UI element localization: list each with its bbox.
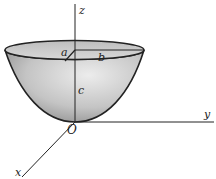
z-axis-label: z xyxy=(78,4,85,17)
semi-axis-a-label: a xyxy=(61,46,68,59)
x-axis-label: x xyxy=(15,166,22,179)
semi-axis-b-label: b xyxy=(98,51,105,64)
y-axis-label: y xyxy=(203,108,211,121)
height-c-label: c xyxy=(78,84,84,97)
paraboloid-diagram: z y x O a b c xyxy=(0,0,216,179)
origin-label: O xyxy=(67,123,77,137)
